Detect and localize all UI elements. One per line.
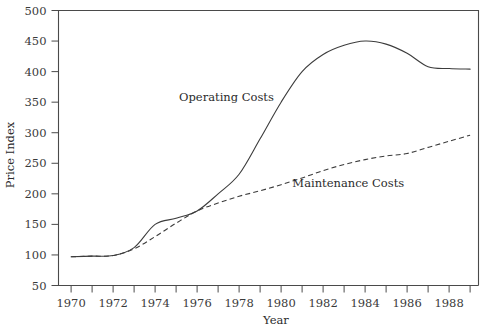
y-tick-label: 250 [25, 156, 47, 170]
x-tick-label: 1980 [266, 296, 295, 310]
series-label-operating-costs: Operating Costs [179, 90, 274, 104]
x-tick-label: 1982 [308, 296, 337, 310]
x-axis-title: Year [262, 313, 289, 327]
price-index-line-chart: 50100150200250300350400450500 1970197219… [0, 0, 496, 330]
chart-canvas: 50100150200250300350400450500 1970197219… [0, 0, 496, 330]
y-tick-label: 300 [25, 126, 47, 140]
y-tick-label: 500 [25, 4, 47, 18]
x-tick-label: 1984 [350, 296, 379, 310]
y-tick-label: 400 [25, 65, 47, 79]
x-tick-label: 1986 [392, 296, 421, 310]
y-axis-title: Price Index [3, 121, 17, 188]
x-tick-label: 1976 [182, 296, 211, 310]
y-tick-label: 450 [25, 34, 47, 48]
series-label-maintenance-costs: Maintenance Costs [292, 176, 404, 190]
x-tick-label: 1978 [224, 296, 253, 310]
y-tick-label: 150 [25, 217, 47, 231]
y-tick-label: 50 [32, 279, 47, 293]
y-tick-label: 350 [25, 95, 47, 109]
chart-background [0, 0, 496, 330]
x-tick-label: 1970 [56, 296, 85, 310]
x-tick-label: 1972 [98, 296, 127, 310]
y-tick-label: 200 [25, 187, 47, 201]
y-tick-label: 100 [25, 248, 47, 262]
x-tick-label: 1988 [434, 296, 463, 310]
x-tick-label: 1974 [140, 296, 169, 310]
